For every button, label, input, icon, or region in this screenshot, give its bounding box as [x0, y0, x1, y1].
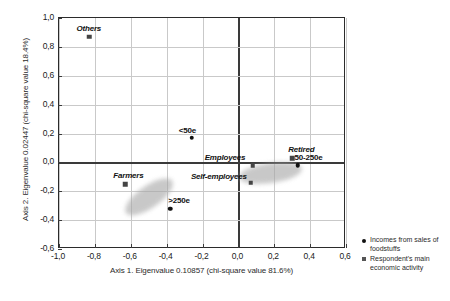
x-tick-label: -0,6 [123, 251, 137, 261]
y-tick-label: 0,4 [54, 99, 65, 109]
x-tick [310, 244, 311, 248]
x-tick [346, 244, 347, 248]
data-point [249, 180, 254, 185]
legend-marker-square-icon [362, 257, 366, 261]
x-tick-label: 0,0 [232, 251, 243, 261]
data-point [168, 206, 173, 211]
data-point-label: Retired [288, 145, 314, 154]
data-point-label: <50e [179, 126, 196, 135]
x-axis-zero-line [59, 162, 344, 164]
y-tick-label: -0,2 [54, 185, 68, 195]
x-tick-label: -0,4 [159, 251, 173, 261]
y-tick-label: -0,6 [54, 243, 68, 253]
legend-item-label: Respondent's main economic activity [370, 255, 448, 273]
legend-item-label: Incomes from sales of foodstuffs [370, 236, 448, 254]
x-tick [238, 244, 239, 248]
y-tick-label: 0,6 [54, 70, 65, 80]
x-tick-label: -0,2 [195, 251, 209, 261]
y-axis-title: Axis 2. Eigenvalue 0.02447 (chi-square v… [21, 15, 30, 245]
data-point-label: Employees [205, 153, 245, 162]
x-tick [203, 244, 204, 248]
grid-line-vertical [203, 18, 204, 247]
y-axis-zero-line [238, 18, 240, 247]
legend-item: Respondent's main economic activity [362, 255, 448, 273]
data-point-label: Farmers [113, 171, 143, 180]
x-tick-label: 0,4 [304, 251, 315, 261]
data-point [189, 136, 194, 141]
x-tick-label: 0,6 [339, 251, 350, 261]
grid-line-vertical [274, 18, 275, 247]
data-point [295, 163, 300, 168]
legend-marker-circle-icon [362, 239, 366, 243]
data-point [87, 35, 92, 40]
grid-line-vertical [310, 18, 311, 247]
data-point [123, 182, 128, 187]
x-tick [95, 244, 96, 248]
y-tick-label: 0,2 [54, 128, 65, 138]
x-tick [167, 244, 168, 248]
x-tick [131, 244, 132, 248]
grid-line-vertical [95, 18, 96, 247]
grid-line-horizontal [59, 47, 344, 48]
grid-line-horizontal [59, 105, 344, 106]
grid-line-vertical [167, 18, 168, 247]
chart-legend: Incomes from sales of foodstuffsResponde… [362, 236, 448, 274]
data-point-label: Others [76, 24, 101, 33]
grid-line-vertical [346, 18, 347, 247]
grid-line-horizontal [59, 134, 344, 135]
grid-line-horizontal [59, 191, 344, 192]
y-tick-label: 1,0 [54, 12, 65, 22]
grid-line-horizontal [59, 76, 344, 77]
data-point-label: >250e [168, 196, 189, 205]
x-axis-title: Axis 1. Eigenvalue 0.10857 (chi-square v… [58, 266, 345, 275]
y-tick-label: 0,0 [54, 156, 65, 166]
legend-item: Incomes from sales of foodstuffs [362, 236, 448, 254]
y-tick-label: -0,4 [54, 214, 68, 224]
x-tick-label: -0,8 [87, 251, 101, 261]
x-tick [274, 244, 275, 248]
y-tick-label: 0,8 [54, 41, 65, 51]
x-tick-label: 0,2 [268, 251, 279, 261]
chart-root: <50e>250e50-250eOthersFarmersEmployeesSe… [0, 0, 450, 301]
data-point [290, 156, 295, 161]
plot-area: <50e>250e50-250eOthersFarmersEmployeesSe… [58, 17, 345, 248]
data-point-label: 50-250e [295, 153, 323, 162]
grid-line-horizontal [59, 220, 344, 221]
data-point-label: Self-employees [191, 172, 247, 181]
data-point [250, 163, 255, 168]
